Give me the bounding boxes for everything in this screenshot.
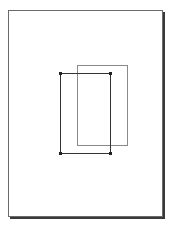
selection-handle-top-left[interactable]: [59, 72, 62, 75]
selection-handle-bottom-left[interactable]: [59, 152, 62, 155]
selection-handle-bottom-right[interactable]: [109, 152, 112, 155]
selection-handle-top-right[interactable]: [109, 72, 112, 75]
front-rectangle-selected[interactable]: [60, 73, 111, 154]
